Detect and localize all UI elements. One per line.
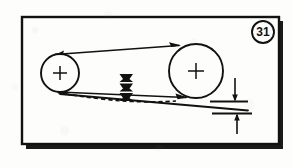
figure-number-label: 31 (256, 25, 270, 39)
figure-container: 31 (0, 0, 293, 168)
figure-number-badge: 31 (252, 21, 274, 43)
right-pulley (169, 44, 223, 98)
left-pulley (41, 54, 79, 92)
belt-pulley-diagram: 31 (0, 0, 293, 168)
